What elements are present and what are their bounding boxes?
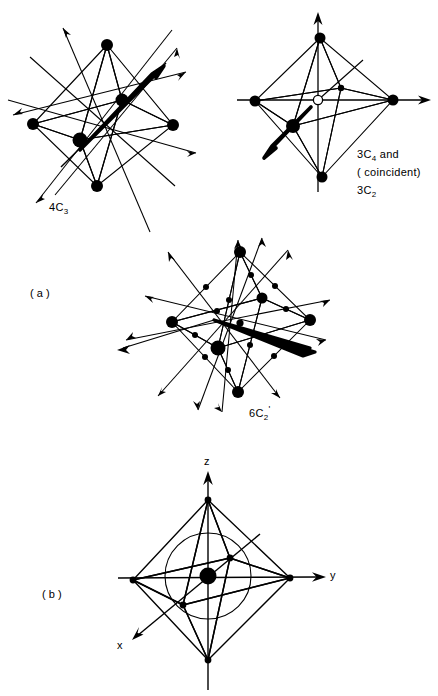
axis-label-z: z	[204, 455, 210, 467]
axis-label-y: y	[330, 569, 336, 581]
axis-x-arrowhead	[132, 627, 144, 640]
axis-label-x: x	[117, 639, 123, 651]
central-atom	[200, 568, 217, 585]
diagram-axes-sphere	[0, 0, 438, 696]
